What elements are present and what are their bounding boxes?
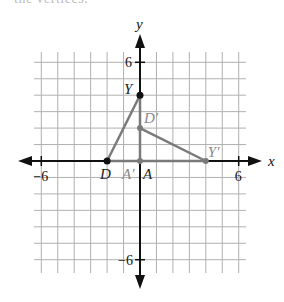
point-D	[104, 158, 111, 165]
label-A: A	[142, 166, 153, 182]
label-D: D	[99, 166, 111, 182]
x-axis-right-arrow-icon	[248, 156, 262, 166]
point-A-prime	[137, 158, 143, 164]
x-axis-label: x	[267, 153, 275, 169]
label-D-prime: D′	[143, 110, 159, 126]
coordinate-plane: xy−666−6DYAD′Y′A′	[0, 0, 284, 302]
y-axis-label: y	[134, 16, 143, 32]
y-axis-up-arrow-icon	[135, 34, 145, 48]
y-axis-down-arrow-icon	[135, 275, 145, 289]
point-D-prime	[137, 125, 143, 131]
x-tick-label-neg6: −6	[33, 169, 48, 184]
y-tick-label-6: 6	[125, 55, 132, 70]
point-Y	[137, 92, 144, 99]
x-axis-left-arrow-icon	[18, 156, 32, 166]
label-Y-prime: Y′	[208, 144, 220, 160]
y-tick-label-neg6: −6	[118, 253, 133, 268]
x-tick-label-6: 6	[235, 169, 242, 184]
label-A-prime: A′	[121, 166, 135, 182]
